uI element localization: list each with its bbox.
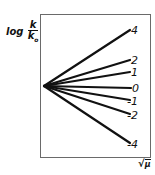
label-0: 0: [132, 82, 139, 95]
label-minus-1: -1: [127, 95, 138, 108]
x-axis-label: √μ: [138, 158, 151, 169]
line-4: [44, 30, 130, 86]
label-minus-4: -4: [127, 138, 138, 151]
line-minus-2: [44, 86, 130, 114]
chart-lines: 4 2 1 0 -1 -2 -4: [0, 0, 155, 175]
label-minus-2: -2: [127, 109, 138, 122]
label-1: 1: [131, 66, 138, 79]
line-minus-4: [44, 86, 130, 143]
x-axis-radicand: μ: [145, 159, 151, 169]
label-4: 4: [131, 24, 138, 37]
